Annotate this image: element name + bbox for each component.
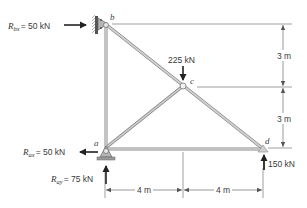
reaction-rbx: Rbx= 50 kN (7, 21, 86, 32)
truss-diagram: b a c d Rbx= 50 kN Rax= 50 kN Ray= 75 kN… (0, 0, 307, 208)
node-label-c: c (190, 76, 194, 86)
dim-label-vertical-top: 3 m (277, 51, 291, 61)
svg-text:150 kN: 150 kN (268, 159, 295, 169)
svg-text:Ray= 75 kN: Ray= 75 kN (50, 174, 93, 185)
svg-text:Rax= 50 kN: Rax= 50 kN (22, 147, 65, 158)
joint-c (180, 83, 186, 89)
svg-text:225 kN: 225 kN (168, 55, 195, 65)
node-label-a: a (94, 138, 99, 148)
reaction-rax: Rax= 50 kN (22, 147, 98, 158)
svg-text:Rbx= 50 kN: Rbx= 50 kN (7, 21, 50, 32)
node-label-b: b (110, 12, 115, 22)
node-label-d: d (265, 136, 270, 146)
dim-label-horizontal-right: 4 m (216, 185, 230, 195)
reaction-ray: Ray= 75 kN (50, 166, 106, 185)
dim-label-vertical-bottom: 3 m (277, 114, 291, 124)
load-d: 150 kN (264, 155, 295, 170)
dim-label-horizontal-left: 4 m (137, 185, 151, 195)
reference-lines (105, 24, 292, 198)
member-ac (108, 86, 183, 146)
